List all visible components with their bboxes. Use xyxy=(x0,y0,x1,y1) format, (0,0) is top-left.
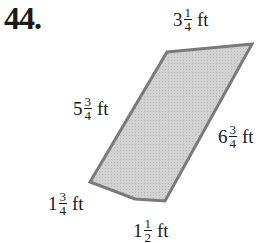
fraction: 34 xyxy=(229,123,238,150)
pentagon-figure xyxy=(0,0,267,243)
label-left-side: 5 34 ft xyxy=(73,95,109,122)
fraction: 14 xyxy=(184,6,193,33)
fraction: 12 xyxy=(144,217,153,243)
label-bottom-side: 1 12 ft xyxy=(133,217,169,243)
label-top-side: 3 14 ft xyxy=(173,6,209,33)
label-right-side: 6 34 ft xyxy=(218,123,254,150)
fraction: 34 xyxy=(84,95,93,122)
fraction: 34 xyxy=(59,190,68,217)
label-bottom-left-side: 1 34 ft xyxy=(48,190,84,217)
